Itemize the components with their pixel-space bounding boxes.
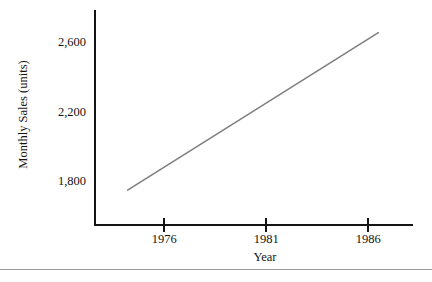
- footer-divider: [0, 269, 432, 270]
- x-tick-label-1986: 1986: [338, 232, 398, 247]
- x-tick-1976: [163, 218, 165, 232]
- y-tick-label-1800: 1,800: [58, 174, 86, 189]
- y-tick-row: 2,600: [0, 35, 86, 50]
- y-axis-line: [94, 10, 96, 226]
- y-axis-title: Monthly Sales (units): [16, 15, 31, 215]
- y-tick-row: 1,800: [0, 174, 86, 189]
- x-tick-label-1976: 1976: [134, 232, 194, 247]
- y-tick-label-2600: 2,600: [58, 35, 86, 50]
- y-tick-label-2200: 2,200: [58, 105, 86, 120]
- x-tick-1981: [265, 218, 267, 232]
- x-axis-title: Year: [225, 250, 305, 265]
- x-tick-1986: [367, 218, 369, 232]
- x-tick-label-1981: 1981: [236, 232, 296, 247]
- sales-trend-line: [128, 33, 379, 191]
- x-axis-line: [94, 224, 413, 226]
- y-tick-row: 2,200: [0, 105, 86, 120]
- chart-figure: 197619811986 2,6002,2001,800 Year Monthl…: [0, 0, 432, 282]
